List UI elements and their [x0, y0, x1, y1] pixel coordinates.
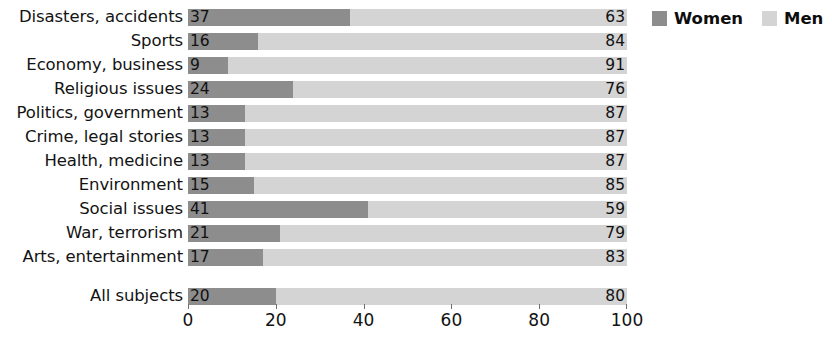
- bar-track-men: 3763: [188, 9, 627, 26]
- axis-tick-label: 60: [421, 310, 481, 330]
- category-label: Health, medicine: [0, 151, 183, 171]
- axis-tick-label: 0: [158, 310, 218, 330]
- x-axis: 020406080100: [188, 304, 627, 340]
- axis-tick-label: 100: [597, 310, 657, 330]
- women-value-label: 41: [190, 201, 210, 218]
- bar-track-men: 1387: [188, 153, 627, 170]
- men-value-label: 87: [605, 129, 625, 146]
- axis-tick-label: 80: [509, 310, 569, 330]
- legend-swatch-icon: [762, 11, 777, 26]
- category-label: Arts, entertainment: [0, 247, 183, 267]
- axis-tick-mark: [188, 304, 189, 309]
- bar-track-men: 2476: [188, 81, 627, 98]
- axis-tick-mark: [276, 304, 277, 309]
- bar-segment-women: [188, 9, 350, 26]
- bar-track-men: 2080: [188, 288, 627, 305]
- axis-tick-mark: [364, 304, 365, 309]
- women-value-label: 15: [190, 177, 210, 194]
- women-value-label: 13: [190, 129, 210, 146]
- category-label: Environment: [0, 175, 183, 195]
- men-value-label: 87: [605, 105, 625, 122]
- legend-swatch-icon: [652, 11, 667, 26]
- category-label: Economy, business: [0, 55, 183, 75]
- axis-tick-label: 40: [334, 310, 394, 330]
- axis-tick-mark: [451, 304, 452, 309]
- men-value-label: 83: [605, 249, 625, 266]
- axis-tick-mark: [539, 304, 540, 309]
- men-value-label: 63: [605, 9, 625, 26]
- category-label: All subjects: [0, 286, 183, 306]
- men-value-label: 79: [605, 225, 625, 242]
- men-value-label: 76: [605, 81, 625, 98]
- bar-track-men: 1585: [188, 177, 627, 194]
- bar-track-men: 1387: [188, 129, 627, 146]
- bar-segment-women: [188, 201, 368, 218]
- women-value-label: 21: [190, 225, 210, 242]
- women-value-label: 13: [190, 153, 210, 170]
- women-value-label: 13: [190, 105, 210, 122]
- legend-label: Men: [784, 9, 823, 28]
- women-value-label: 17: [190, 249, 210, 266]
- stacked-bar-chart: Disasters, accidents3763Sports1684Econom…: [0, 0, 832, 343]
- category-label: Politics, government: [0, 103, 183, 123]
- men-value-label: 87: [605, 153, 625, 170]
- men-value-label: 85: [605, 177, 625, 194]
- women-value-label: 20: [190, 288, 210, 305]
- legend-item-men[interactable]: Men: [762, 8, 823, 28]
- axis-tick-label: 20: [246, 310, 306, 330]
- category-label: Social issues: [0, 199, 183, 219]
- legend-label: Women: [674, 9, 743, 28]
- bar-track-men: 1783: [188, 249, 627, 266]
- axis-tick-mark: [626, 304, 627, 309]
- men-value-label: 59: [605, 201, 625, 218]
- category-label: Sports: [0, 31, 183, 51]
- women-value-label: 9: [190, 57, 200, 74]
- category-label: War, terrorism: [0, 223, 183, 243]
- category-label: Religious issues: [0, 79, 183, 99]
- category-label: Disasters, accidents: [0, 7, 183, 27]
- women-value-label: 24: [190, 81, 210, 98]
- bar-track-men: 2179: [188, 225, 627, 242]
- category-label: Crime, legal stories: [0, 127, 183, 147]
- men-value-label: 91: [605, 57, 625, 74]
- bar-track-men: 991: [188, 57, 627, 74]
- legend-item-women[interactable]: Women: [652, 8, 743, 28]
- women-value-label: 37: [190, 9, 210, 26]
- bar-track-men: 1387: [188, 105, 627, 122]
- men-value-label: 84: [605, 33, 625, 50]
- bar-track-men: 1684: [188, 33, 627, 50]
- bar-track-men: 4159: [188, 201, 627, 218]
- women-value-label: 16: [190, 33, 210, 50]
- men-value-label: 80: [605, 288, 625, 305]
